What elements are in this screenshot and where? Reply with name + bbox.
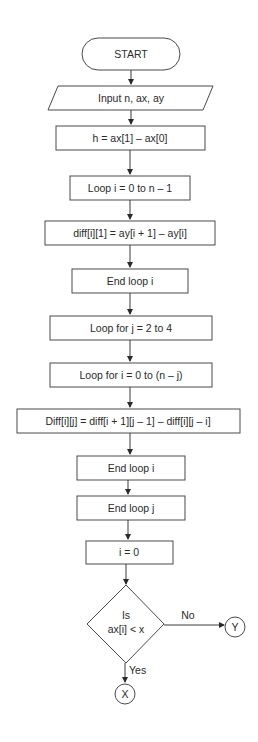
step-label: Loop for j = 2 to 4: [90, 322, 172, 334]
process-step-loop-i: Loop i = 0 to n – 1: [70, 176, 190, 200]
step-label: Diff[i][j] = diff[i + 1][j – 1] – diff[i…: [45, 415, 210, 427]
step-label: End loop j: [108, 502, 155, 514]
process-step-diff-table: Diff[i][j] = diff[i + 1][j – 1] – diff[i…: [17, 409, 240, 433]
process-step-end-loop-i-inner: End loop i: [77, 456, 185, 480]
start-label: START: [114, 48, 148, 60]
connector-x-label: X: [121, 688, 128, 700]
step-label: Loop for i = 0 to (n – j): [79, 369, 182, 381]
process-step-loop-i-inner: Loop for i = 0 to (n – j): [50, 363, 212, 387]
decision-node: Is ax[i] < x: [87, 585, 164, 663]
step-label: End loop i: [108, 462, 155, 474]
decision-line1: Is: [122, 609, 130, 621]
input-label: Input n, ax, ay: [98, 92, 165, 104]
step-label: i = 0: [119, 546, 139, 558]
flowchart: START Input n, ax, ay h = ax[1] – ax[0] …: [0, 0, 258, 742]
process-step-init-i: i = 0: [86, 541, 173, 564]
yes-label: Yes: [129, 664, 146, 676]
input-node: Input n, ax, ay: [48, 86, 213, 110]
decision-line2: ax[i] < x: [108, 623, 145, 635]
step-label: Loop i = 0 to n – 1: [88, 182, 173, 194]
step-label: h = ax[1] – ax[0]: [92, 132, 167, 144]
step-label: diff[i][1] = ay[i + 1] – ay[i]: [73, 227, 187, 239]
connector-y: Y: [225, 617, 245, 637]
process-step-h: h = ax[1] – ax[0]: [56, 126, 205, 150]
no-label: No: [181, 609, 195, 621]
connector-x: X: [115, 684, 135, 704]
connector-y-label: Y: [231, 621, 238, 633]
start-terminal: START: [82, 38, 180, 70]
process-step-loop-j: Loop for j = 2 to 4: [50, 316, 212, 340]
process-step-end-loop-i: End loop i: [72, 269, 188, 293]
step-label: End loop i: [107, 275, 154, 287]
process-step-diff-first: diff[i][1] = ay[i + 1] – ay[i]: [45, 221, 215, 245]
process-step-end-loop-j: End loop j: [77, 496, 185, 520]
